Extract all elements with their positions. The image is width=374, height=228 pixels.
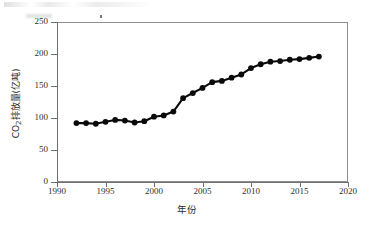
data-point-2011 [258, 61, 264, 67]
data-point-1993 [83, 120, 89, 126]
data-point-2015 [297, 56, 303, 62]
data-point-2003 [180, 95, 186, 101]
y-axis-title-subscript: 2 [15, 120, 23, 124]
data-point-2004 [190, 90, 196, 96]
chart-page: 050100150200250 199019952000200520102015… [0, 0, 374, 228]
data-point-2007 [219, 78, 225, 84]
data-point-1992 [74, 120, 80, 126]
data-point-2012 [268, 59, 274, 65]
data-point-2006 [209, 79, 215, 85]
data-point-2013 [277, 58, 283, 64]
y-axis-title-suffix: 排放量(亿吨) [11, 68, 21, 120]
data-point-2009 [238, 72, 244, 78]
data-point-2005 [200, 85, 206, 91]
y-axis-title: CO2排放量(亿吨) [9, 43, 24, 163]
co2-emissions-series [0, 0, 374, 228]
y-axis-title-prefix: CO [11, 125, 21, 138]
data-point-2008 [229, 75, 235, 81]
x-axis-title: 年份 [0, 202, 374, 216]
data-point-2016 [306, 55, 312, 61]
data-point-2010 [248, 65, 254, 71]
data-point-1996 [112, 117, 118, 123]
series-line [76, 57, 319, 124]
data-point-2002 [171, 109, 177, 115]
data-point-2014 [287, 57, 293, 63]
data-point-2017 [316, 54, 322, 60]
data-point-1997 [122, 118, 128, 124]
data-point-1998 [132, 120, 138, 126]
data-point-1999 [141, 118, 147, 124]
data-point-1995 [103, 119, 109, 125]
data-point-1994 [93, 121, 99, 127]
data-point-2001 [161, 113, 167, 119]
data-point-2000 [151, 114, 157, 120]
